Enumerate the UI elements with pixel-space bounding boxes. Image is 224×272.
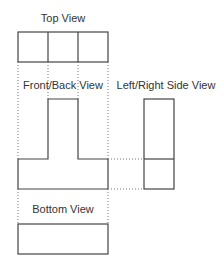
side-view-outline	[144, 99, 174, 189]
front-view-label: Front/Back View	[23, 79, 103, 91]
top-view	[18, 32, 108, 62]
side-view	[144, 99, 174, 189]
orthographic-diagram: Top View Front/Back View Left/Right Side…	[0, 0, 224, 272]
bottom-view-outline	[18, 224, 108, 254]
top-view-label: Top View	[41, 12, 85, 24]
side-view-label: Left/Right Side View	[117, 79, 216, 91]
projection-lines-vertical	[18, 62, 108, 159]
top-view-outline	[18, 32, 108, 62]
bottom-view-label: Bottom View	[32, 203, 94, 215]
projection-lines-horizontal	[108, 159, 144, 189]
front-view-outline	[18, 99, 108, 189]
